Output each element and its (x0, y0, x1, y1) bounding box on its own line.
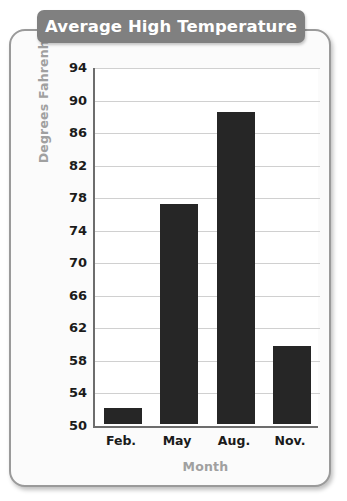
y-axis-tick-label: 86 (43, 125, 87, 140)
x-axis-tick-label: Feb. (93, 433, 149, 448)
gridline (95, 198, 320, 199)
plot-area (93, 68, 318, 428)
x-axis-title: Month (93, 459, 318, 474)
gridline (95, 101, 320, 102)
y-axis-tick-label: 50 (43, 418, 87, 433)
bar (217, 112, 255, 424)
chart-title-banner: Average High Temperature (37, 10, 305, 43)
y-axis-tick-label: 58 (43, 353, 87, 368)
bar (104, 408, 142, 424)
x-axis-tick-labels: Feb.MayAug.Nov. (93, 433, 318, 453)
plot-wrapper (93, 68, 318, 430)
bar (160, 204, 198, 424)
y-axis-tick-label: 62 (43, 320, 87, 335)
y-axis-tick-labels: 505458626670747882869094 (40, 68, 87, 430)
gridline (95, 133, 320, 134)
gridline (95, 328, 320, 329)
chart-page: Average High Temperature Degrees Fahrenh… (0, 0, 347, 501)
y-axis-tick-label: 90 (43, 93, 87, 108)
y-axis-tick-label: 70 (43, 255, 87, 270)
y-axis-tick-label: 66 (43, 288, 87, 303)
gridline (95, 166, 320, 167)
gridline (95, 263, 320, 264)
y-axis-tick-label: 94 (43, 60, 87, 75)
y-axis-tick-label: 54 (43, 385, 87, 400)
bar (273, 346, 311, 424)
gridline (95, 68, 320, 69)
y-axis-tick-label: 74 (43, 223, 87, 238)
x-axis-tick-label: May (149, 433, 205, 448)
y-axis-tick-label: 78 (43, 190, 87, 205)
y-axis-tick-label: 82 (43, 158, 87, 173)
gridline (95, 231, 320, 232)
chart-title: Average High Temperature (45, 17, 297, 36)
x-axis-tick-label: Nov. (262, 433, 318, 448)
gridline (95, 296, 320, 297)
x-axis-tick-label: Aug. (206, 433, 262, 448)
